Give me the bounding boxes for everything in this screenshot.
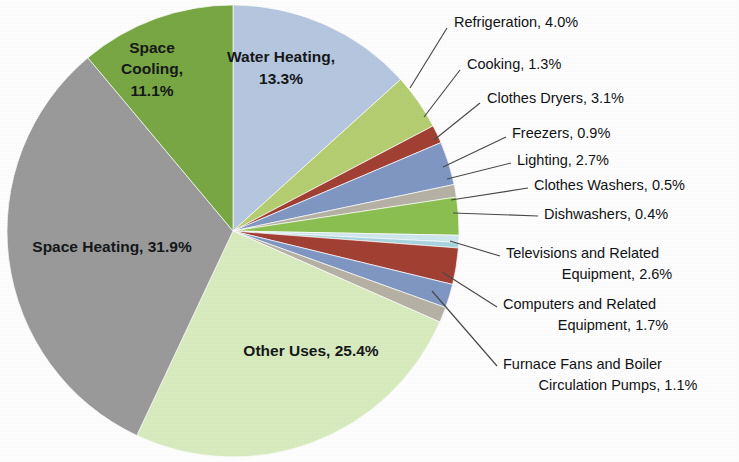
- leader-line-clothes-washers: [451, 188, 528, 200]
- label-water-heating-line1: Water Heating,: [227, 48, 335, 65]
- pie-chart-figure: Water Heating, 13.3%Refrigeration, 4%Coo…: [0, 0, 739, 462]
- label-water-heating-line2: 13.3%: [259, 70, 303, 87]
- label-other-uses: Other Uses, 25.4%: [243, 342, 378, 359]
- label-space-cooling-line1: Space: [129, 39, 175, 56]
- leader-line-refrigeration: [410, 28, 447, 88]
- callout-televisions-line2: Equipment, 2.6%: [562, 266, 673, 282]
- callout-clothes-washers: Clothes Washers, 0.5%: [534, 177, 685, 193]
- callout-furnace-line2: Circulation Pumps, 1.1%: [539, 377, 698, 393]
- leader-line-clothes-dryers: [434, 103, 480, 140]
- callout-label-group: Refrigeration, 4.0% Cooking, 1.3% Clothe…: [454, 14, 697, 393]
- callout-lighting: Lighting, 2.7%: [517, 152, 609, 168]
- callout-furnace-line1: Furnace Fans and Boiler: [503, 356, 662, 372]
- label-space-heating: Space Heating, 31.9%: [32, 238, 192, 255]
- pie-slice-group: Water Heating, 13.3%Refrigeration, 4%Coo…: [7, 5, 459, 457]
- label-space-cooling-line2: Cooling,: [121, 60, 183, 77]
- callout-freezers: Freezers, 0.9%: [512, 125, 610, 141]
- leader-line-cooking: [424, 70, 460, 117]
- leader-line-freezers: [443, 137, 506, 167]
- label-space-cooling-line3: 11.1%: [130, 82, 173, 99]
- callout-clothes-dryers: Clothes Dryers, 3.1%: [487, 90, 624, 106]
- pie-chart-svg: Water Heating, 13.3%Refrigeration, 4%Coo…: [0, 0, 739, 462]
- leader-line-lighting: [447, 163, 511, 179]
- callout-cooking: Cooking, 1.3%: [467, 56, 561, 72]
- callout-computers-line2: Equipment, 1.7%: [558, 317, 669, 333]
- callout-dishwashers: Dishwashers, 0.4%: [544, 206, 668, 222]
- callout-televisions-line1: Televisions and Related: [506, 245, 659, 261]
- callout-computers-line1: Computers and Related: [503, 296, 656, 312]
- leader-line-furnace-fans: [432, 291, 497, 366]
- leader-line-dishwashers: [453, 213, 538, 216]
- callout-refrigeration: Refrigeration, 4.0%: [454, 14, 578, 30]
